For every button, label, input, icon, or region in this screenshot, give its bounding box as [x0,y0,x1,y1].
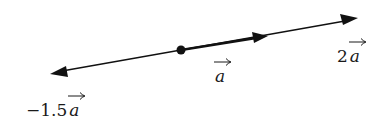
vector-2a-symbol: a [350,40,360,65]
vector-a-symbol: a [215,60,225,85]
label-vector-a: a [215,60,225,85]
vector-arrow-icon [214,57,232,67]
vector-neg1.5a-symbol: a [69,94,79,119]
vector-2a-variable: a [350,46,360,66]
vector-neg1.5a-coefficient: −1.5 [26,102,67,119]
vector-neg1.5a-variable: a [69,100,79,120]
arrowhead-neg1.5a-icon [50,66,68,77]
vector-a-variable: a [215,66,225,86]
vector-arrow-icon [68,91,86,101]
arrowhead-a-icon [252,32,268,43]
line-neg1.5a [62,50,181,71]
vector-diagram: a 2 a −1.5 a [0,0,386,125]
arrowhead-2a-icon [340,14,358,25]
origin-dot [177,46,186,55]
vector-arrow-icon [349,37,367,47]
label-vector-2a: 2 a [337,40,360,65]
line-a [181,38,256,50]
label-vector-neg1.5a: −1.5 a [26,94,79,119]
vector-2a-coefficient: 2 [337,48,348,65]
